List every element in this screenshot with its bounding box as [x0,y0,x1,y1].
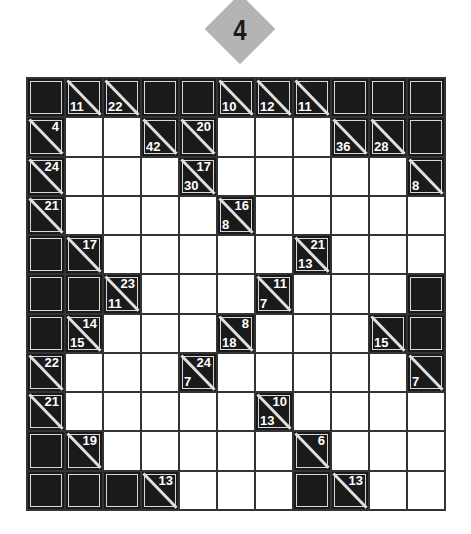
clue-cell: 1013 [256,393,292,430]
entry-cell[interactable] [218,432,254,469]
clue-cell: 818 [218,315,254,352]
entry-cell[interactable] [332,354,368,391]
entry-cell[interactable] [332,158,368,195]
across-sum: 21 [311,238,325,252]
entry-cell[interactable] [142,393,178,430]
entry-cell[interactable] [142,315,178,352]
black-block [28,275,64,312]
entry-cell[interactable] [218,472,254,509]
entry-cell[interactable] [294,393,330,430]
entry-cell[interactable] [408,432,444,469]
entry-cell[interactable] [332,393,368,430]
entry-cell[interactable] [294,118,330,155]
across-sum: 13 [159,474,173,488]
entry-cell[interactable] [66,158,102,195]
across-sum: 19 [83,434,97,448]
entry-cell[interactable] [256,354,292,391]
clue-cell: 42 [142,118,178,155]
entry-cell[interactable] [408,197,444,234]
down-sum: 18 [222,336,236,350]
across-sum: 22 [45,356,59,370]
entry-cell[interactable] [332,236,368,273]
entry-cell[interactable] [104,432,140,469]
clue-cell: 36 [332,118,368,155]
entry-cell[interactable] [408,393,444,430]
entry-cell[interactable] [256,472,292,509]
down-sum: 10 [222,100,236,114]
entry-cell[interactable] [294,197,330,234]
entry-cell[interactable] [370,432,406,469]
entry-cell[interactable] [256,315,292,352]
entry-cell[interactable] [142,432,178,469]
entry-cell[interactable] [104,197,140,234]
down-sum: 11 [70,100,84,114]
clue-cell: 22 [104,79,140,116]
entry-cell[interactable] [256,197,292,234]
across-sum: 23 [121,277,135,291]
across-sum: 10 [273,395,287,409]
entry-cell[interactable] [218,236,254,273]
entry-cell[interactable] [256,118,292,155]
across-sum: 8 [242,317,249,331]
entry-cell[interactable] [180,393,216,430]
entry-cell[interactable] [142,354,178,391]
clue-cell: 12 [256,79,292,116]
entry-cell[interactable] [370,472,406,509]
entry-cell[interactable] [142,197,178,234]
entry-cell[interactable] [332,432,368,469]
down-sum: 11 [298,100,312,114]
entry-cell[interactable] [66,118,102,155]
entry-cell[interactable] [218,275,254,312]
entry-cell[interactable] [256,236,292,273]
entry-cell[interactable] [294,315,330,352]
clue-cell: 2311 [104,275,140,312]
entry-cell[interactable] [370,236,406,273]
entry-cell[interactable] [66,197,102,234]
entry-cell[interactable] [180,275,216,312]
entry-cell[interactable] [218,118,254,155]
entry-cell[interactable] [180,432,216,469]
entry-cell[interactable] [256,158,292,195]
clue-cell: 24 [28,158,64,195]
entry-cell[interactable] [180,236,216,273]
entry-cell[interactable] [104,158,140,195]
clue-cell: 17 [66,236,102,273]
clue-cell: 247 [180,354,216,391]
entry-cell[interactable] [294,275,330,312]
across-sum: 13 [349,474,363,488]
entry-cell[interactable] [294,158,330,195]
entry-cell[interactable] [104,354,140,391]
black-block [332,79,368,116]
down-sum: 36 [336,140,350,154]
entry-cell[interactable] [104,315,140,352]
across-sum: 6 [318,434,325,448]
entry-cell[interactable] [370,197,406,234]
clue-cell: 7 [408,354,444,391]
entry-cell[interactable] [66,354,102,391]
entry-cell[interactable] [66,393,102,430]
entry-cell[interactable] [332,315,368,352]
entry-cell[interactable] [142,158,178,195]
entry-cell[interactable] [370,393,406,430]
entry-cell[interactable] [332,197,368,234]
entry-cell[interactable] [180,472,216,509]
entry-cell[interactable] [218,393,254,430]
entry-cell[interactable] [408,236,444,273]
entry-cell[interactable] [370,275,406,312]
entry-cell[interactable] [294,354,330,391]
clue-cell: 28 [370,118,406,155]
entry-cell[interactable] [370,354,406,391]
entry-cell[interactable] [104,393,140,430]
entry-cell[interactable] [142,275,178,312]
entry-cell[interactable] [180,197,216,234]
entry-cell[interactable] [256,432,292,469]
entry-cell[interactable] [370,158,406,195]
entry-cell[interactable] [332,275,368,312]
entry-cell[interactable] [218,158,254,195]
entry-cell[interactable] [408,472,444,509]
entry-cell[interactable] [218,354,254,391]
entry-cell[interactable] [104,236,140,273]
entry-cell[interactable] [142,236,178,273]
entry-cell[interactable] [104,118,140,155]
entry-cell[interactable] [180,315,216,352]
